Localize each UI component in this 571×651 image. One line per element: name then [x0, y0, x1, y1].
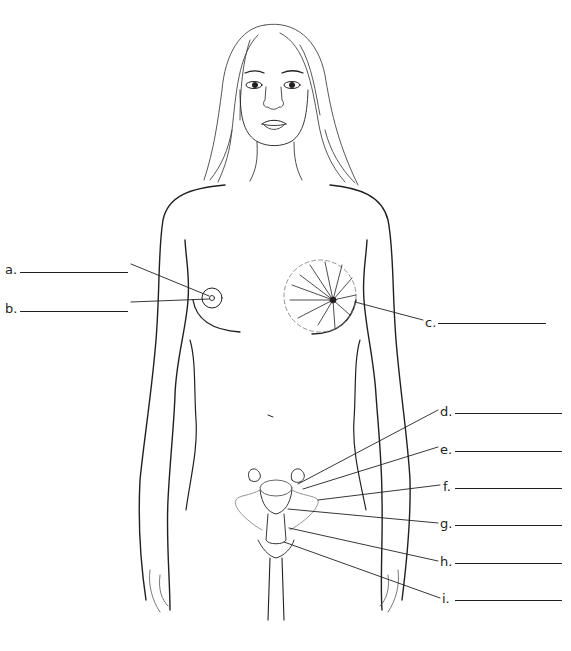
answer-blank-e[interactable] [455, 451, 562, 452]
label-h: h. [440, 555, 452, 569]
worksheet-diagram: a. b. c. d. e. f. g. h. i. [0, 0, 571, 651]
label-g: g. [440, 517, 452, 531]
face [240, 71, 308, 146]
label-f: f. [443, 480, 451, 494]
answer-blank-i[interactable] [455, 600, 562, 601]
answer-blank-b[interactable] [20, 311, 128, 312]
answer-blank-a[interactable] [20, 272, 128, 273]
navel [268, 415, 273, 417]
hair-outline [204, 24, 358, 185]
nipple [210, 296, 215, 301]
left-hand [149, 570, 168, 612]
label-b: b. [5, 302, 17, 316]
reproductive-organs [235, 469, 318, 620]
answer-blank-c[interactable] [438, 323, 546, 324]
leader-lines [131, 264, 440, 598]
female-anatomy-illustration [0, 0, 571, 651]
label-i: i. [442, 592, 450, 606]
label-c: c. [425, 316, 436, 330]
answer-blank-h[interactable] [455, 563, 562, 564]
answer-blank-g[interactable] [455, 525, 562, 526]
answer-blank-f[interactable] [455, 488, 562, 489]
neck [250, 142, 302, 181]
label-a: a. [5, 263, 17, 277]
areola [202, 288, 222, 308]
label-d: d. [440, 405, 452, 419]
right-hand [380, 570, 399, 612]
left-breast-contour [193, 300, 240, 332]
answer-blank-d[interactable] [455, 413, 562, 414]
mammary-gland [284, 260, 356, 332]
label-e: e. [440, 443, 452, 457]
